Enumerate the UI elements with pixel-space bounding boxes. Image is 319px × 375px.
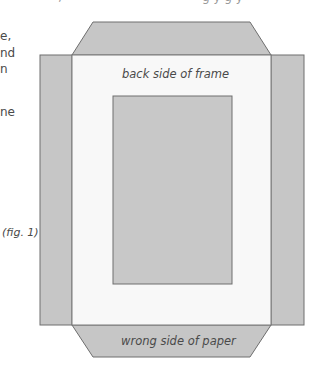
frame-label: back side of frame xyxy=(122,67,229,81)
left-flap xyxy=(40,55,72,325)
frame-diagram xyxy=(0,0,319,375)
bottom-flap-label: wrong side of paper xyxy=(121,334,236,348)
figure-caption: (fig. 1) xyxy=(2,226,39,239)
top-flap xyxy=(72,22,271,55)
frame-opening xyxy=(113,96,232,284)
right-flap xyxy=(271,55,304,325)
